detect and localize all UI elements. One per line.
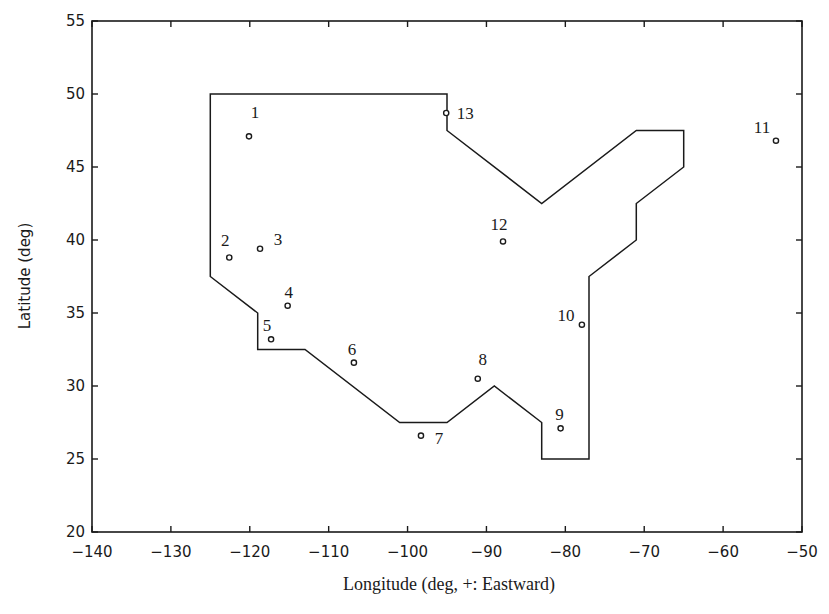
x-tick-label: −90 (471, 543, 503, 561)
station-point: 7 (418, 429, 443, 448)
station-marker-icon (444, 110, 449, 115)
x-tick-label: −80 (550, 543, 582, 561)
station-marker-icon (257, 246, 262, 251)
y-tick-label: 35 (66, 304, 85, 322)
x-tick-labels: −140−130−120−110−100−90−80−70−60−50 (71, 543, 817, 561)
x-tick-label: −50 (786, 543, 818, 561)
station-marker-icon (558, 426, 563, 431)
y-tick-label: 25 (66, 450, 85, 468)
station-label: 9 (555, 405, 564, 424)
station-point: 3 (257, 230, 282, 252)
x-tick-label: −100 (387, 543, 428, 561)
station-marker-icon (268, 337, 273, 342)
station-point: 5 (263, 316, 274, 342)
station-points: 12345678910111213 (221, 103, 779, 447)
station-label: 12 (491, 215, 508, 234)
y-tick-label: 50 (66, 85, 85, 103)
station-label: 1 (251, 103, 260, 122)
station-point: 4 (284, 283, 293, 309)
station-label: 3 (274, 230, 283, 249)
station-label: 10 (557, 306, 574, 325)
station-point: 9 (555, 405, 564, 431)
station-point: 8 (475, 350, 487, 382)
station-point: 13 (444, 104, 474, 123)
station-point: 11 (754, 118, 779, 144)
x-tick-label: −60 (707, 543, 739, 561)
y-axis-label: Latitude (deg) (16, 223, 34, 329)
y-tick-label: 55 (66, 12, 85, 30)
station-point: 2 (221, 231, 232, 261)
y-tick-label: 20 (66, 523, 85, 541)
x-tick-label: −140 (71, 543, 112, 561)
station-marker-icon (500, 239, 505, 244)
station-marker-icon (418, 433, 423, 438)
boundary-outline (210, 94, 683, 459)
x-tick-label: −70 (628, 543, 660, 561)
station-label: 5 (263, 316, 272, 335)
station-marker-icon (285, 303, 290, 308)
station-label: 7 (435, 429, 444, 448)
station-point: 10 (557, 306, 584, 328)
station-marker-icon (351, 360, 356, 365)
x-tick-label: −120 (229, 543, 270, 561)
x-tick-label: −110 (308, 543, 349, 561)
y-tick-labels: 2025303540455055 (66, 12, 85, 541)
map-chart: −140−130−120−110−100−90−80−70−60−50 2025… (0, 0, 829, 614)
y-tick-label: 45 (66, 158, 85, 176)
y-tick-label: 30 (66, 377, 85, 395)
station-label: 11 (754, 118, 770, 137)
station-marker-icon (227, 255, 232, 260)
station-marker-icon (246, 134, 251, 139)
y-tick-label: 40 (66, 231, 85, 249)
station-point: 12 (491, 215, 508, 244)
station-marker-icon (773, 138, 778, 143)
region-boundary-polygon (210, 94, 683, 459)
x-tick-label: −130 (150, 543, 191, 561)
station-label: 13 (457, 104, 474, 123)
station-point: 1 (246, 103, 259, 139)
station-label: 4 (284, 283, 293, 302)
station-label: 2 (221, 231, 230, 250)
station-marker-icon (475, 376, 480, 381)
station-point: 6 (348, 340, 357, 366)
x-axis-label: Longitude (deg, +: Eastward) (343, 574, 555, 595)
station-label: 6 (348, 340, 357, 359)
station-marker-icon (579, 322, 584, 327)
station-label: 8 (479, 350, 488, 369)
